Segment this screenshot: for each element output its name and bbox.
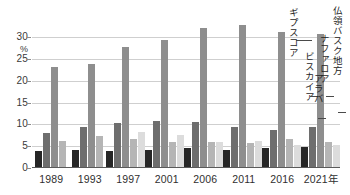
bar — [145, 150, 152, 168]
bar — [301, 147, 308, 168]
bar — [122, 47, 129, 168]
bar — [231, 127, 238, 168]
bar — [114, 123, 121, 168]
bar — [278, 32, 285, 168]
bar — [286, 139, 293, 168]
bar — [72, 150, 79, 168]
y-tick-mark — [27, 37, 31, 38]
y-tick-mark — [27, 168, 31, 169]
bar — [223, 150, 230, 168]
x-tick-label: 2011 — [225, 170, 264, 188]
bar-group — [184, 20, 223, 168]
leader-line — [318, 118, 326, 119]
series-annotation-label: 仏領バスク地方 — [331, 6, 342, 76]
bar-group — [145, 20, 184, 168]
x-axis-labels: 19891993199720012006201120162021年 — [32, 170, 340, 188]
series-annotation-label: ギプスコア — [287, 8, 298, 58]
bar — [169, 142, 176, 168]
bar — [59, 141, 66, 168]
bar — [309, 127, 316, 168]
bar — [138, 132, 145, 168]
leader-line — [296, 40, 312, 41]
bar — [262, 148, 269, 168]
bar-group — [32, 20, 69, 168]
bar — [333, 145, 340, 168]
bar — [80, 127, 87, 168]
y-tick-mark — [27, 103, 31, 104]
y-tick-mark — [27, 59, 31, 60]
bar-group — [223, 20, 262, 168]
bar — [177, 135, 184, 168]
bar — [239, 25, 246, 168]
x-axis-line — [32, 167, 340, 168]
x-tick-label: 1989 — [32, 170, 71, 188]
y-tick-mark — [27, 124, 31, 125]
bar — [161, 40, 168, 168]
x-tick-label: 2021年 — [302, 170, 341, 188]
bar — [192, 122, 199, 168]
y-tick-mark — [27, 146, 31, 147]
x-tick-label: 2016 — [263, 170, 302, 188]
bar-group — [106, 20, 145, 168]
x-tick-label: 1993 — [71, 170, 110, 188]
bar — [96, 136, 103, 168]
x-tick-label: 1997 — [109, 170, 148, 188]
y-axis: 051015202530% — [0, 0, 32, 195]
x-tick-label: 2001 — [148, 170, 187, 188]
bar-group — [69, 20, 106, 168]
bar-chart: 051015202530% 19891993199720012006201120… — [0, 0, 350, 195]
bar — [325, 142, 332, 168]
bar — [153, 121, 160, 168]
leader-line — [338, 112, 346, 113]
bar — [270, 130, 277, 168]
leader-line — [326, 96, 334, 97]
bar — [43, 133, 50, 168]
bar — [130, 139, 137, 168]
bar — [51, 67, 58, 168]
bar — [255, 141, 262, 168]
bar — [106, 151, 113, 168]
y-tick-mark — [27, 81, 31, 82]
bar — [35, 151, 42, 168]
bar — [216, 142, 223, 168]
bar — [247, 143, 254, 168]
bar — [200, 28, 207, 168]
x-tick-label: 2006 — [186, 170, 225, 188]
bar — [294, 145, 301, 169]
bar — [184, 148, 191, 168]
series-annotation-label: ナファロア — [318, 34, 329, 84]
bar — [208, 142, 215, 168]
bar — [88, 64, 95, 168]
y-axis-unit-label: % — [20, 45, 28, 54]
